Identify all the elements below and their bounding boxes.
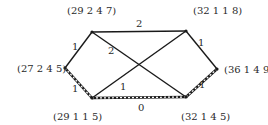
- edge-weight-label: 2: [108, 45, 114, 56]
- node-D-dot: [215, 67, 218, 70]
- node-label: (32 1 4 5): [181, 111, 230, 122]
- edge-A-B: [92, 31, 186, 32]
- node-label: (29 2 4 7): [67, 5, 116, 16]
- edge-weight-label: 1: [72, 83, 78, 94]
- edges-group: [65, 31, 217, 98]
- node-label: (29 1 1 5): [53, 111, 102, 122]
- node-label: (32 1 1 8): [193, 5, 242, 16]
- edge-E-F-path-highlight: [92, 97, 186, 98]
- edge-weight-label: 1: [199, 79, 205, 90]
- labels-group: 21211101(29 2 4 7)(32 1 1 8)(27 2 4 5)(3…: [17, 5, 268, 122]
- edge-weight-label: 1: [198, 37, 204, 48]
- edge-weight-label: 1: [120, 81, 126, 92]
- node-F-dot: [184, 95, 187, 98]
- edge-weight-label: 1: [72, 41, 78, 52]
- edge-weight-label: 2: [136, 18, 142, 29]
- node-label: (36 1 4 9): [224, 64, 268, 75]
- graph-diagram: 21211101(29 2 4 7)(32 1 1 8)(27 2 4 5)(3…: [0, 0, 268, 125]
- edge-weight-label: 0: [138, 102, 144, 113]
- node-A-dot: [90, 30, 93, 33]
- node-label: (27 2 4 5): [17, 63, 66, 74]
- node-E-dot: [90, 96, 93, 99]
- node-B-dot: [184, 29, 187, 32]
- edge-A-C: [65, 32, 92, 68]
